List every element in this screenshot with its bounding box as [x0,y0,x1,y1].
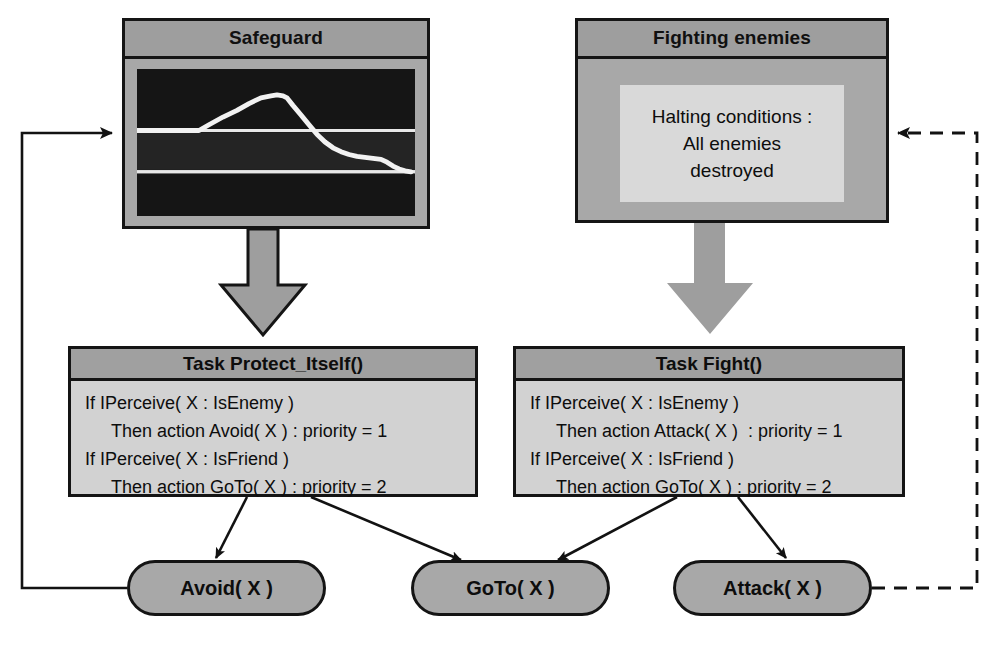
task-rule-line: Then action Attack( X ) : priority = 1 [530,417,902,445]
halting-line-3: destroyed [690,157,773,184]
task-title-fight: Task Fight() [516,349,902,381]
task-rules-fight: If IPerceive( X : IsEnemy ) Then action … [516,381,902,507]
behavior-box-safeguard[interactable]: Safeguard [122,18,430,229]
behavior-body-fighting-enemies: Halting conditions : All enemies destroy… [578,59,886,220]
action-node-goto[interactable]: GoTo( X ) [411,560,610,616]
task-rule-line: Then action GoTo( X ) : priority = 2 [530,473,902,501]
task-title-protect-itself: Task Protect_Itself() [71,349,475,381]
halting-line-1: Halting conditions : [652,103,813,130]
block-arrow-safeguard-to-protect [221,229,305,335]
task-rules-protect-itself: If IPerceive( X : IsEnemy ) Then action … [71,381,475,507]
task-box-fight[interactable]: Task Fight() If IPerceive( X : IsEnemy )… [513,346,905,497]
behavior-box-fighting-enemies[interactable]: Fighting enemies Halting conditions : Al… [575,18,889,223]
behavior-body-safeguard [125,59,427,226]
action-node-attack[interactable]: Attack( X ) [673,560,872,616]
diagram-canvas: Safeguard Fighting enemies [0,0,996,646]
task-rule-line: If IPerceive( X : IsEnemy ) [530,389,902,417]
block-arrow-fighting-to-fight [667,223,753,334]
halting-line-2: All enemies [683,130,781,157]
behavior-title-safeguard: Safeguard [125,21,427,59]
task-rule-line: If IPerceive( X : IsFriend ) [85,445,475,473]
signal-plot [137,69,415,216]
halting-conditions-panel: Halting conditions : All enemies destroy… [620,85,844,202]
action-node-avoid[interactable]: Avoid( X ) [127,560,326,616]
task-rule-line: If IPerceive( X : IsFriend ) [530,445,902,473]
task-rule-line: Then action Avoid( X ) : priority = 1 [85,417,475,445]
behavior-title-fighting-enemies: Fighting enemies [578,21,886,59]
task-rule-line: If IPerceive( X : IsEnemy ) [85,389,475,417]
task-rule-line: Then action GoTo( X ) : priority = 2 [85,473,475,501]
task-box-protect-itself[interactable]: Task Protect_Itself() If IPerceive( X : … [68,346,478,497]
